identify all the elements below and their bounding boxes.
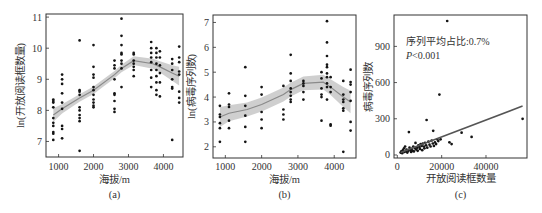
data-point xyxy=(92,65,95,68)
data-point xyxy=(155,47,158,50)
confidence-band xyxy=(220,75,351,127)
data-point xyxy=(342,109,345,112)
data-point xyxy=(178,61,181,64)
data-point xyxy=(320,77,323,80)
data-point xyxy=(120,62,123,65)
data-point xyxy=(155,93,158,96)
data-point xyxy=(78,106,81,109)
data-point xyxy=(433,145,436,148)
data-point xyxy=(425,144,428,147)
x-tick-label: 1000 xyxy=(49,161,69,172)
data-point xyxy=(326,76,329,79)
data-point xyxy=(78,114,81,117)
x-tick-label: 40000 xyxy=(473,161,498,172)
data-point xyxy=(349,83,352,86)
data-point xyxy=(159,56,162,59)
data-point xyxy=(178,56,181,59)
data-point xyxy=(52,139,55,142)
data-point xyxy=(78,39,81,42)
data-point xyxy=(450,143,453,146)
x-tick-label: 0 xyxy=(395,161,400,172)
data-point xyxy=(178,101,181,104)
plot-frame xyxy=(46,14,183,157)
data-point xyxy=(52,117,55,120)
data-point xyxy=(326,86,329,89)
data-point xyxy=(349,99,352,102)
data-point xyxy=(326,98,329,101)
data-point xyxy=(423,147,426,150)
data-point xyxy=(132,62,135,65)
data-point xyxy=(159,72,162,75)
data-point xyxy=(408,131,411,134)
data-point xyxy=(120,59,123,62)
panel-label: (b) xyxy=(278,189,291,201)
data-point xyxy=(260,127,263,130)
annotation-pvalue: P<0.001 xyxy=(405,50,440,61)
panel-label: (c) xyxy=(455,189,467,201)
data-point xyxy=(155,62,158,65)
data-point xyxy=(326,72,329,75)
data-point xyxy=(435,143,438,146)
y-tick-label: 9 xyxy=(37,74,42,85)
x-axis-label: 海拔/m xyxy=(269,173,300,185)
data-point xyxy=(320,119,323,122)
data-point xyxy=(460,131,463,134)
data-point xyxy=(302,80,305,83)
data-point xyxy=(429,145,432,148)
data-point xyxy=(120,17,123,20)
panel-a-scatter: 10002000300040007891011海拔/mln(开放阅读框数量)(a… xyxy=(14,12,183,201)
data-points xyxy=(52,17,181,152)
data-point xyxy=(329,91,332,94)
data-point xyxy=(446,20,449,23)
y-tick-label: 8 xyxy=(37,105,42,116)
y-tick-label: 10 xyxy=(32,43,42,54)
y-axis-label: ln(开放阅读框数量) xyxy=(14,42,27,128)
data-point xyxy=(470,136,473,139)
y-tick-label: 900 xyxy=(375,41,390,52)
data-point xyxy=(61,73,64,76)
data-point xyxy=(150,41,153,44)
data-point xyxy=(61,101,64,104)
data-point xyxy=(260,86,263,89)
data-point xyxy=(78,149,81,152)
data-point xyxy=(113,111,116,114)
data-point xyxy=(159,64,162,67)
y-tick-label: 7 xyxy=(204,17,209,28)
data-point xyxy=(61,92,64,95)
y-tick-label: 300 xyxy=(375,113,390,124)
x-tick-label: 1000 xyxy=(215,161,235,172)
data-point xyxy=(92,106,95,109)
data-point xyxy=(61,137,64,140)
x-tick-label: 4000 xyxy=(153,161,173,172)
data-point xyxy=(414,142,417,145)
data-point xyxy=(349,121,352,124)
y-tick-label: 3 xyxy=(204,116,209,127)
data-point xyxy=(113,100,116,103)
data-point xyxy=(349,129,352,132)
data-point xyxy=(342,93,345,96)
x-tick-label: 3000 xyxy=(118,161,138,172)
data-point xyxy=(244,126,247,129)
data-point xyxy=(228,103,231,106)
data-point xyxy=(171,87,174,90)
data-point xyxy=(113,67,116,70)
data-point xyxy=(244,66,247,69)
panel-b-scatter: 1000200030004000234567海拔/mln(病毒序列数)(b) xyxy=(185,15,356,201)
figure: 10002000300040007891011海拔/mln(开放阅读框数量)(a… xyxy=(0,0,542,213)
data-point xyxy=(426,146,429,149)
data-point xyxy=(320,93,323,96)
data-point xyxy=(326,55,329,58)
data-point xyxy=(413,150,416,153)
data-point xyxy=(159,95,162,98)
y-tick-label: 7 xyxy=(37,136,42,147)
data-point xyxy=(421,149,424,152)
data-point xyxy=(289,98,292,101)
panel-c-scatter: 020000400000300600900开放阅读框数量病毒序列数(c)序列平均… xyxy=(362,15,527,201)
data-point xyxy=(78,90,81,93)
data-point xyxy=(342,80,345,83)
data-point xyxy=(92,86,95,89)
data-point xyxy=(302,91,305,94)
x-tick-label: 4000 xyxy=(324,161,344,172)
data-point xyxy=(132,53,135,56)
data-point xyxy=(78,120,81,123)
